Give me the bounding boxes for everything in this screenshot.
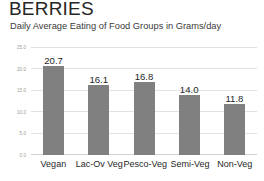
chart-card: BERRIES Daily Average Eating of Food Gro… xyxy=(0,0,264,181)
bar-value-label: 16.8 xyxy=(121,71,166,82)
bar-value-label: 16.1 xyxy=(76,74,121,85)
bar-value-label: 11.8 xyxy=(212,93,257,104)
x-tick-label-non-veg: Non-Veg xyxy=(212,158,257,174)
x-tick-label-semi-veg: Semi-Veg xyxy=(168,158,213,174)
y-tick-label: 10.0 xyxy=(17,109,26,114)
bar[interactable] xyxy=(88,85,109,155)
bar[interactable] xyxy=(179,95,200,156)
chart-title: BERRIES xyxy=(9,0,94,19)
x-tick-label-lac-ov-veg: Lac-Ov Veg xyxy=(76,158,123,174)
x-axis: Vegan Lac-Ov Veg Pesco-Veg Semi-Veg Non-… xyxy=(31,158,257,174)
y-tick-label: 15.0 xyxy=(17,88,26,93)
x-tick-label-vegan: Vegan xyxy=(31,158,76,174)
chart-subtitle: Daily Average Eating of Food Groups in G… xyxy=(10,21,221,32)
y-tick-label: 25.0 xyxy=(17,45,26,50)
bar[interactable] xyxy=(224,104,245,155)
bar-group-lac-ov-veg: 16.1 xyxy=(76,47,121,155)
x-tick-label-pesco-veg: Pesco-Veg xyxy=(123,158,168,174)
bar-group-pesco-veg: 16.8 xyxy=(121,47,166,155)
bar-value-label: 14.0 xyxy=(167,84,212,95)
bars-layer: 20.7 16.1 16.8 14.0 11.8 xyxy=(31,47,257,155)
bar-group-semi-veg: 14.0 xyxy=(167,47,212,155)
bar[interactable] xyxy=(134,82,155,155)
bar-value-label: 20.7 xyxy=(31,55,76,66)
y-axis: 25.0 20.0 15.0 10.0 5.0 0.0 xyxy=(0,47,29,155)
bar-group-vegan: 20.7 xyxy=(31,47,76,155)
bar-group-non-veg: 11.8 xyxy=(212,47,257,155)
y-tick-label: 0.0 xyxy=(20,153,26,158)
y-tick-label: 20.0 xyxy=(17,66,26,71)
bar[interactable] xyxy=(43,66,64,155)
y-tick-label: 5.0 xyxy=(20,131,26,136)
